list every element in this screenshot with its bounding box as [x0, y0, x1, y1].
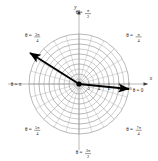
- angle-label-denominator: 2: [87, 154, 89, 159]
- angle-label-text: θ = π: [11, 81, 22, 87]
- angle-label-theta-pi: θ = π: [11, 81, 22, 87]
- angle-label-text: θ =: [25, 32, 32, 38]
- angle-label-text: θ =: [126, 126, 133, 132]
- angle-label-numerator: 5π: [35, 125, 40, 130]
- angle-label-numerator: 3π: [86, 148, 91, 153]
- angle-label-theta-0: θ = 0: [133, 87, 144, 93]
- angle-label-numerator: 3π: [35, 32, 40, 37]
- y-axis-label: y: [73, 4, 77, 10]
- angle-label-numerator: 7π: [136, 125, 141, 130]
- angle-label-denominator: 2: [87, 14, 89, 19]
- origin-point-marker: [76, 81, 81, 86]
- angle-label-text: θ = 0: [133, 87, 144, 93]
- angle-label-text: θ =: [76, 149, 83, 155]
- polar-plot-figure: 246810 θ = 0θ =π4θ =π2θ =3π4θ = πθ =5π4θ…: [0, 0, 158, 161]
- angle-label-text: θ =: [126, 32, 133, 38]
- polar-plot-canvas: 246810 θ = 0θ =π4θ =π2θ =3π4θ = πθ =5π4θ…: [0, 0, 158, 161]
- angle-label-text: θ =: [25, 126, 32, 132]
- x-axis-label: x: [149, 75, 153, 81]
